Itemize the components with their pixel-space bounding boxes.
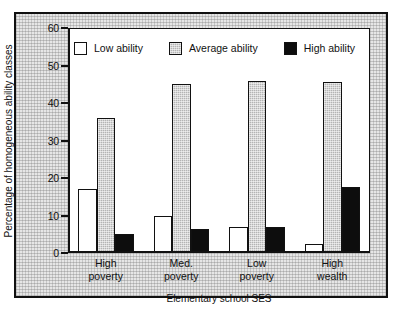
- bar-group-2: [219, 28, 295, 253]
- y-axis-tick: [61, 215, 68, 217]
- category-label-line: poverty: [144, 270, 220, 283]
- legend-label: High ability: [304, 42, 355, 54]
- legend-swatch-icon: [284, 42, 297, 55]
- bar-2-2: [266, 227, 285, 253]
- y-axis-title-wrapper: Percentage of homogeneous ability classe…: [38, 28, 39, 253]
- category-label-line: Med.: [144, 257, 220, 270]
- y-axis-tick: [61, 102, 68, 104]
- x-axis-line: [68, 251, 370, 253]
- category-label-0: Highpoverty: [68, 257, 144, 282]
- y-axis-tick: [61, 27, 68, 29]
- category-label-3: Highwealth: [295, 257, 371, 282]
- y-axis-tick: [61, 252, 68, 254]
- legend-swatch-icon: [74, 42, 87, 55]
- bar-3-1: [323, 82, 342, 253]
- bar-group-3: [295, 28, 371, 253]
- bar-0-1: [97, 118, 116, 253]
- bar-1-0: [154, 216, 173, 254]
- figure-frame: 0102030405060 Percentage of homogeneous …: [14, 12, 388, 298]
- y-axis-line: [68, 28, 70, 253]
- legend-swatch-icon: [169, 42, 182, 55]
- x-axis-title: Elementary school SES: [68, 293, 370, 304]
- legend-label: Average ability: [189, 42, 258, 54]
- category-label-line: poverty: [219, 270, 295, 283]
- category-label-line: poverty: [68, 270, 144, 283]
- y-axis-title: Percentage of homogeneous ability classe…: [3, 44, 14, 237]
- y-axis-tick: [61, 65, 68, 67]
- category-label-line: Low: [219, 257, 295, 270]
- bar-2-1: [248, 81, 267, 254]
- category-label-line: High: [295, 257, 371, 270]
- legend-item-2: High ability: [284, 42, 355, 55]
- bar-3-2: [342, 187, 361, 253]
- category-label-1: Med.poverty: [144, 257, 220, 282]
- legend-item-1: Average ability: [169, 42, 258, 55]
- bar-2-0: [229, 227, 248, 253]
- legend-label: Low ability: [94, 42, 143, 54]
- bar-0-0: [78, 189, 97, 253]
- x-axis-category-labels: HighpovertyMed.povertyLowpovertyHighweal…: [68, 257, 370, 289]
- y-axis-tick: [61, 177, 68, 179]
- legend-item-0: Low ability: [74, 42, 143, 55]
- category-label-2: Lowpoverty: [219, 257, 295, 282]
- bar-group-0: [68, 28, 144, 253]
- category-label-line: High: [68, 257, 144, 270]
- bar-1-2: [191, 229, 210, 253]
- bar-series-container: [68, 28, 370, 253]
- chart-legend: Low abilityAverage abilityHigh ability: [74, 38, 364, 58]
- bar-1-1: [172, 84, 191, 253]
- category-label-line: wealth: [295, 270, 371, 283]
- bar-group-1: [144, 28, 220, 253]
- y-axis-tick: [61, 140, 68, 142]
